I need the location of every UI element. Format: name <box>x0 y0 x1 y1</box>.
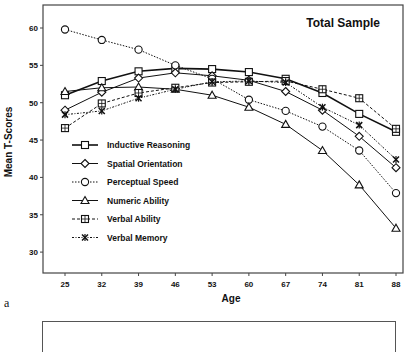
legend-item: Verbal Memory <box>72 233 168 243</box>
x-tick-label: 39 <box>134 280 143 289</box>
next-panel-frame <box>42 321 396 352</box>
x-tick-label: 81 <box>355 280 364 289</box>
x-tick-label: 53 <box>208 280 217 289</box>
legend-label: Spatial Orientation <box>107 159 183 169</box>
legend-item: Numeric Ability <box>72 196 169 206</box>
y-tick-label: 50 <box>29 99 38 108</box>
y-axis: 30354045505560 <box>29 24 43 257</box>
x-tick-label: 25 <box>61 280 70 289</box>
y-tick-label: 40 <box>29 173 38 182</box>
plot-frame <box>43 5 403 273</box>
x-tick-label: 46 <box>171 280 180 289</box>
x-tick-label: 60 <box>244 280 253 289</box>
legend-label: Perceptual Speed <box>107 177 178 187</box>
panel-label: a <box>4 296 9 311</box>
y-tick-label: 60 <box>29 24 38 33</box>
series-perceptual-speed <box>61 26 399 197</box>
series-verbal-ability <box>62 78 400 133</box>
legend-item: Spatial Orientation <box>72 159 183 169</box>
legend-label: Verbal Memory <box>107 233 168 243</box>
y-tick-label: 35 <box>29 211 38 220</box>
chart-title: Total Sample <box>306 16 380 30</box>
series-verbal-memory <box>62 78 399 163</box>
legend-label: Numeric Ability <box>107 196 169 206</box>
legend-item: Verbal Ability <box>72 214 161 224</box>
y-tick-label: 30 <box>29 248 38 257</box>
y-tick-label: 45 <box>29 136 38 145</box>
x-axis: 25323946536067748188 <box>61 273 401 289</box>
x-tick-label: 74 <box>318 280 327 289</box>
x-axis-label: Age <box>222 293 241 304</box>
legend-label: Verbal Ability <box>107 214 161 224</box>
legend-item: Perceptual Speed <box>72 177 178 187</box>
series-spatial-orientation <box>61 69 400 172</box>
x-tick-label: 88 <box>392 280 401 289</box>
legend-item: Inductive Reasoning <box>72 140 190 150</box>
series-numeric-ability <box>61 83 400 231</box>
x-tick-label: 32 <box>97 280 106 289</box>
legend: Inductive ReasoningSpatial OrientationPe… <box>72 140 190 243</box>
y-tick-label: 55 <box>29 61 38 70</box>
y-axis-label: Mean T-Scores <box>3 106 14 177</box>
x-tick-label: 67 <box>281 280 290 289</box>
legend-label: Inductive Reasoning <box>107 140 190 150</box>
